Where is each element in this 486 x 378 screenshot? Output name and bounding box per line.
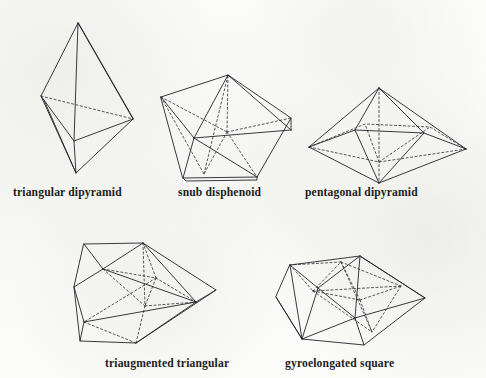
gyro-edge-10 xyxy=(302,318,355,339)
pent-hidden-equator-back xyxy=(309,124,466,149)
figure-plate: triangular dipyramid snub disphenoid pen… xyxy=(0,0,486,378)
solid-snub-disphenoid xyxy=(161,75,291,181)
triangular-dipyramid-apex-right xyxy=(78,23,133,119)
triaug-edge-6 xyxy=(196,290,216,302)
snub-edge-3 xyxy=(194,130,291,138)
snub-edge-1 xyxy=(161,97,194,138)
solid-gyroelongated-square-dipyramid xyxy=(276,256,425,345)
triaug-hidden-8 xyxy=(103,269,145,306)
solid-pentagonal-dipyramid xyxy=(309,88,466,183)
gyro-hidden-2 xyxy=(360,286,401,300)
pent-top-right xyxy=(379,88,466,149)
triaug-edge-1 xyxy=(84,244,103,269)
triaug-edge-2 xyxy=(103,243,143,269)
triaug-hidden-10 xyxy=(84,322,136,343)
snub-hidden-2 xyxy=(227,118,291,132)
snub-hidden-6 xyxy=(204,75,228,174)
gyro-edge-2 xyxy=(276,297,302,339)
caption-triaugmented-triangular: triaugmented triangular xyxy=(105,357,229,370)
gyro-hidden-5 xyxy=(313,262,341,291)
solid-triangular-dipyramid xyxy=(41,23,133,173)
pent-hidden-equator-front xyxy=(309,147,466,162)
caption-gyroelongated-square: gyroelongated square xyxy=(285,357,394,370)
snub-edge-6 xyxy=(194,138,257,177)
caption-snub-disphenoid: snub disphenoid xyxy=(178,186,261,199)
snub-edge-5 xyxy=(183,138,194,178)
gyro-hidden-12 xyxy=(290,262,341,265)
gyro-edge-11 xyxy=(360,256,425,298)
triaug-hidden-1 xyxy=(103,269,156,278)
triaug-edge-10 xyxy=(80,322,84,341)
pent-top-mid-left xyxy=(355,88,379,130)
caption-triangular-dipyramid: triangular dipyramid xyxy=(13,186,122,199)
snub-outline xyxy=(161,75,291,178)
triaug-edge-7 xyxy=(136,302,196,343)
triangular-dipyramid-upper xyxy=(41,23,133,141)
pent-bot-left xyxy=(309,147,379,183)
pent-bot-mid-left xyxy=(355,130,379,183)
snub-hidden-3 xyxy=(227,75,228,132)
snub-hidden-5 xyxy=(227,132,257,177)
snub-hidden-4 xyxy=(204,132,227,174)
gyro-edge-5 xyxy=(318,288,355,318)
gyro-hidden-1 xyxy=(313,291,360,300)
gyro-edge-6 xyxy=(302,288,318,339)
gyro-edge-8 xyxy=(355,298,425,318)
pent-top-left xyxy=(309,88,379,147)
gyro-outline xyxy=(276,256,425,345)
triaug-hidden-6 xyxy=(143,243,145,306)
caption-pentagonal-dipyramid: pentagonal dipyramid xyxy=(305,186,418,199)
gyro-edge-4 xyxy=(290,265,318,288)
triaug-edge-4 xyxy=(103,269,196,302)
triangular-dipyramid-apex-edge xyxy=(74,23,78,141)
snub-edge-7 xyxy=(228,75,291,130)
gyro-edge-9 xyxy=(355,318,364,345)
pent-bot-mid-right xyxy=(379,133,424,183)
triaug-hidden-2 xyxy=(143,243,156,278)
solid-triaugmented-triangular-prism xyxy=(74,243,216,343)
pent-bot-right xyxy=(379,149,466,183)
triaug-hidden-3 xyxy=(145,278,156,306)
pent-top-mid-right xyxy=(379,88,424,133)
gyro-edge-7 xyxy=(355,256,360,318)
triaug-edge-3 xyxy=(74,269,103,287)
triaug-hidden-7 xyxy=(145,302,196,306)
